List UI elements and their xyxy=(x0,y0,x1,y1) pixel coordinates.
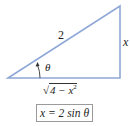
opposite-side-label: x xyxy=(123,36,128,48)
formula-box: x = 2 sin θ xyxy=(36,104,93,122)
angle-arc xyxy=(38,65,41,78)
angle-theta-label: θ xyxy=(45,62,50,73)
right-triangle xyxy=(8,6,120,78)
formula-text: x = 2 sin θ xyxy=(40,107,89,119)
exponent: 2 xyxy=(73,83,77,91)
radicand: 4 − x xyxy=(50,84,73,96)
adjacent-side-label: √4 − x2 xyxy=(43,83,77,96)
angle-arrow-icon xyxy=(36,62,40,67)
hypotenuse-label: 2 xyxy=(58,29,64,41)
